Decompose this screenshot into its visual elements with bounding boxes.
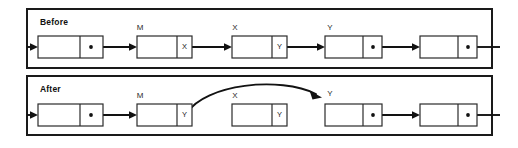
before-link-1-2: [192, 43, 232, 51]
before-node-x: Y: [232, 36, 287, 58]
after-node-x-pointer-text: Y: [277, 110, 282, 119]
before-node-label-y: Y: [327, 23, 333, 32]
after-node-m-pointer-text: Y: [182, 110, 187, 119]
after-panel-title: After: [40, 84, 61, 94]
after-node-x: Y: [232, 104, 287, 126]
after-head-arrow: [27, 111, 38, 119]
before-node-m-pointer-text: X: [182, 42, 187, 51]
before-head-arrow: [27, 43, 38, 51]
diagram-canvas: Before M X Y: [0, 0, 518, 148]
after-node-m: Y: [137, 104, 192, 126]
before-node-label-x: X: [232, 23, 238, 32]
before-node-4-pointer-dot: [466, 45, 470, 49]
before-node-y-pointer-dot: [371, 45, 375, 49]
linked-list-diagram: Before M X Y: [0, 0, 518, 148]
after-node-0-pointer-dot: [89, 113, 93, 117]
after-node-label-x: X: [232, 91, 238, 100]
before-node-x-pointer-text: Y: [277, 42, 282, 51]
after-node-label-m: M: [137, 91, 144, 100]
before-panel-title: Before: [40, 17, 68, 27]
after-node-4-pointer-dot: [466, 113, 470, 117]
before-node-0: [38, 36, 103, 58]
before-link-2-3: [287, 43, 325, 51]
before-node-label-m: M: [137, 23, 144, 32]
before-node-m: X: [137, 36, 192, 58]
after-node-0: [38, 104, 103, 126]
after-node-label-y: Y: [327, 89, 333, 98]
after-node-y-pointer-dot: [371, 113, 375, 117]
before-node-0-pointer-dot: [89, 45, 93, 49]
